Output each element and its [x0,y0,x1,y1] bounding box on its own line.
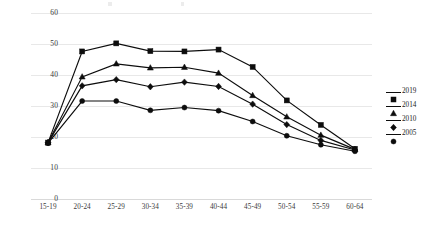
series-2005 [46,99,358,154]
data-point-marker [114,41,119,46]
data-point-marker [46,141,51,146]
data-point-marker [182,105,187,110]
legend-item-2019[interactable]: 2019 [386,86,434,100]
data-point-marker [250,101,256,107]
data-point-marker [148,108,153,113]
data-point-marker [148,49,153,54]
data-point-marker [216,108,221,113]
data-point-marker [284,114,290,119]
legend-item-2014[interactable]: 2014 [386,100,434,114]
data-point-marker [318,122,323,127]
legend-marker-square-icon [390,89,397,96]
data-point-marker [79,83,85,89]
chart-legend: 2019201420102005 [386,86,434,142]
data-point-marker [391,139,396,144]
data-point-marker [318,142,323,147]
data-point-marker [250,92,256,97]
legend-marker-diamond-icon [390,117,397,124]
data-point-marker [147,84,153,90]
legend-marker-circle-icon [390,131,397,138]
series-line [48,101,355,151]
data-point-marker [250,119,255,124]
data-point-marker [80,99,85,104]
data-point-marker [250,64,255,69]
series-line [48,64,355,150]
data-point-marker [216,47,221,52]
data-point-marker [182,49,187,54]
data-point-marker [113,76,119,82]
data-point-marker [284,121,290,127]
series-line [48,80,355,150]
legend-marker-triangle-icon [390,103,397,110]
legend-item-2010[interactable]: 2010 [386,114,434,128]
legend-label: 2010 [402,115,416,124]
series-line [48,43,355,148]
legend-label: 2014 [402,101,416,110]
data-point-marker [216,83,222,89]
series-2014 [45,61,358,152]
legend-label: 2019 [402,87,416,96]
data-point-marker [182,79,188,85]
data-point-marker [80,49,85,54]
data-point-marker [113,61,119,66]
data-point-marker [352,149,357,154]
legend-item-2005[interactable]: 2005 [386,128,434,142]
data-point-marker [284,133,289,138]
series-2019 [46,41,358,151]
data-point-marker [284,98,289,103]
line-chart: 6050403020100 15-1920-2425-2930-3435-394… [0,0,435,232]
series-layer [0,0,435,232]
legend-label: 2005 [402,129,416,138]
data-point-marker [114,99,119,104]
